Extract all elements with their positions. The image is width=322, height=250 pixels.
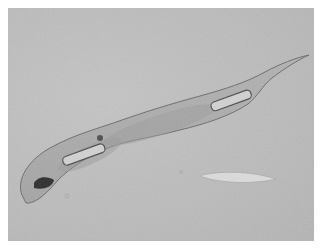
micrograph-photo <box>8 8 314 241</box>
nematode-illustration <box>8 8 314 241</box>
